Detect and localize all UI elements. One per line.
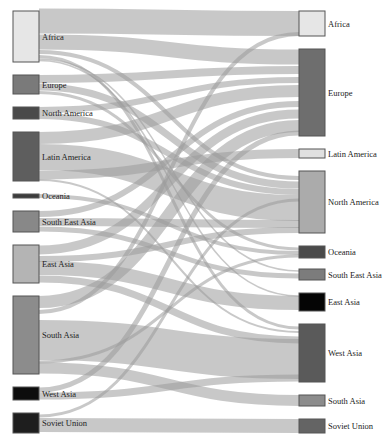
node-label-dst-north-america: North America	[328, 197, 379, 207]
node-rect-dst-latin-america	[299, 149, 325, 158]
node-rect-src-south-east-asia	[13, 211, 39, 232]
node-dst-oceania: Oceania	[299, 246, 356, 258]
node-dst-south-asia: South Asia	[299, 395, 365, 406]
node-label-src-south-east-asia: South East Asia	[42, 217, 96, 227]
node-rect-src-west-asia	[13, 387, 39, 400]
node-src-oceania: Oceania	[13, 191, 70, 201]
node-rect-dst-europe	[299, 49, 325, 136]
node-label-dst-soviet-union: Soviet Union	[328, 421, 374, 431]
node-rect-src-north-america	[13, 107, 39, 119]
node-label-dst-east-asia: East Asia	[328, 297, 360, 307]
node-rect-dst-soviet-union	[299, 419, 325, 433]
node-src-west-asia: West Asia	[13, 387, 76, 400]
node-rect-src-europe	[13, 75, 39, 94]
node-dst-europe: Europe	[299, 49, 353, 136]
node-label-dst-latin-america: Latin America	[328, 149, 377, 159]
node-label-src-east-asia: East Asia	[42, 259, 74, 269]
node-dst-latin-america: Latin America	[299, 149, 377, 159]
node-label-src-soviet-union: Soviet Union	[42, 418, 88, 428]
node-rect-src-latin-america	[13, 132, 39, 181]
node-rect-src-soviet-union	[13, 413, 39, 433]
node-label-src-africa: Africa	[42, 32, 64, 42]
node-dst-west-asia: West Asia	[299, 324, 362, 382]
node-dst-soviet-union: Soviet Union	[299, 419, 374, 433]
link-south-asia-to-west-asia	[39, 340, 299, 359]
sankey-diagram: AfricaEuropeNorth AmericaLatin AmericaOc…	[0, 0, 388, 442]
node-label-src-oceania: Oceania	[42, 191, 70, 201]
node-src-north-america: North America	[13, 107, 93, 119]
node-rect-src-africa	[13, 11, 39, 62]
node-rect-dst-south-asia	[299, 395, 325, 406]
node-dst-north-america: North America	[299, 171, 379, 233]
node-rect-dst-west-asia	[299, 324, 325, 382]
node-label-dst-oceania: Oceania	[328, 247, 356, 257]
node-rect-src-south-asia	[13, 296, 39, 374]
node-rect-dst-south-east-asia	[299, 269, 325, 280]
node-dst-east-asia: East Asia	[299, 293, 360, 311]
node-rect-src-oceania	[13, 194, 39, 198]
node-label-src-south-asia: South Asia	[42, 330, 79, 340]
node-dst-south-east-asia: South East Asia	[299, 269, 382, 280]
link-africa-to-africa	[39, 21, 299, 24]
node-label-src-europe: Europe	[42, 80, 67, 90]
node-label-dst-south-asia: South Asia	[328, 396, 365, 406]
node-label-dst-south-east-asia: South East Asia	[328, 270, 382, 280]
target-nodes: AfricaEuropeLatin AmericaNorth AmericaOc…	[299, 11, 382, 433]
node-rect-dst-oceania	[299, 246, 325, 258]
node-label-dst-europe: Europe	[328, 88, 353, 98]
node-label-src-north-america: North America	[42, 108, 93, 118]
node-rect-dst-africa	[299, 11, 325, 36]
node-label-src-latin-america: Latin America	[42, 152, 91, 162]
node-label-src-west-asia: West Asia	[42, 389, 76, 399]
node-dst-africa: Africa	[299, 11, 350, 36]
link-europe-to-europe	[39, 70, 299, 79]
node-label-dst-west-asia: West Asia	[328, 348, 362, 358]
node-rect-dst-east-asia	[299, 293, 325, 311]
node-rect-src-east-asia	[13, 245, 39, 283]
node-label-dst-africa: Africa	[328, 19, 350, 29]
node-rect-dst-north-america	[299, 171, 325, 233]
